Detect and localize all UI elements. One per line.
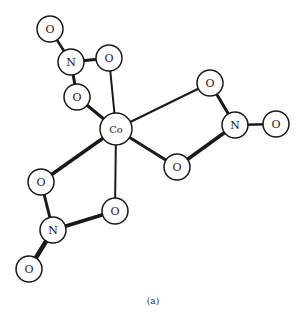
atom-o6: O: [164, 154, 190, 180]
atom-o2: O: [96, 45, 122, 71]
atom-o4: O: [197, 70, 223, 96]
atom-label: O: [172, 161, 181, 174]
atom-label: O: [24, 263, 33, 276]
atom-label: O: [205, 77, 214, 90]
figure-caption: (a): [0, 296, 306, 306]
atom-label: N: [48, 224, 58, 237]
atom-label: O: [36, 176, 45, 189]
atom-o9: O: [16, 256, 42, 282]
atom-label: O: [110, 205, 119, 218]
co-label: Co: [109, 124, 123, 135]
atom-label: N: [66, 56, 76, 69]
atom-o8: O: [102, 198, 128, 224]
atom-n3: N: [40, 217, 66, 243]
cobalt-nitrite-complex-diagram: ONOOONOOOONO Co: [0, 0, 306, 325]
atom-o7: O: [28, 169, 54, 195]
atom-o3: O: [64, 84, 90, 110]
atom-o5: O: [263, 111, 289, 137]
atom-o1: O: [37, 16, 63, 42]
center-atom-co: Co: [100, 113, 132, 145]
atom-n1: N: [58, 49, 84, 75]
atom-label: O: [45, 23, 54, 36]
atom-n2: N: [222, 112, 248, 138]
atom-label: O: [271, 118, 280, 131]
atoms: ONOOONOOOONO: [16, 16, 289, 282]
atom-label: N: [230, 119, 240, 132]
atom-label: O: [72, 91, 81, 104]
atom-label: O: [104, 52, 113, 65]
